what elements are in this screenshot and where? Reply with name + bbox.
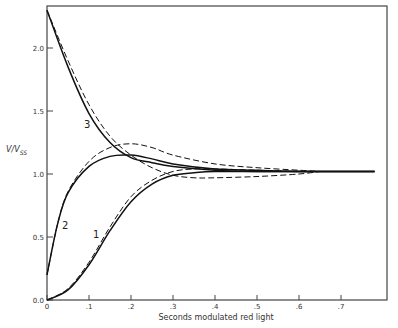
svg-text:.3: .3 [170, 303, 177, 311]
svg-text:0: 0 [45, 303, 49, 311]
svg-text:.5: .5 [254, 303, 261, 311]
x-axis-label: Seconds modulated red light [158, 313, 273, 322]
curve-label-2: 2 [62, 220, 68, 231]
svg-text:.1: .1 [86, 303, 93, 311]
svg-text:.2: .2 [128, 303, 135, 311]
svg-text:0.0: 0.0 [33, 297, 44, 305]
x-axis-ticks: 0.1.2.3.4.5.6.7 [45, 295, 345, 311]
svg-text:.6: .6 [296, 303, 303, 311]
series-line-3-model [47, 10, 320, 178]
series-line-1-model [47, 169, 320, 300]
series-line-2-model [47, 144, 320, 275]
series-line-2 [47, 155, 375, 275]
svg-text:.4: .4 [212, 303, 219, 311]
svg-text:2.0: 2.0 [33, 45, 44, 53]
series-line-3 [47, 10, 375, 171]
svg-text:1.5: 1.5 [33, 108, 44, 116]
svg-text:1.0: 1.0 [33, 171, 44, 179]
curve-label-3: 3 [84, 119, 90, 130]
y-axis-label: V/VSS [6, 145, 27, 156]
plot-frame [47, 6, 387, 300]
y-axis-ticks: 0.00.51.01.52.0 [33, 45, 53, 305]
line-chart: 0.00.51.01.52.0 0.1.2.3.4.5.6.7 Seconds … [0, 0, 398, 328]
series-group [47, 10, 375, 300]
svg-text:.7: .7 [338, 303, 345, 311]
curve-label-1: 1 [93, 229, 99, 240]
svg-text:0.5: 0.5 [33, 234, 44, 242]
